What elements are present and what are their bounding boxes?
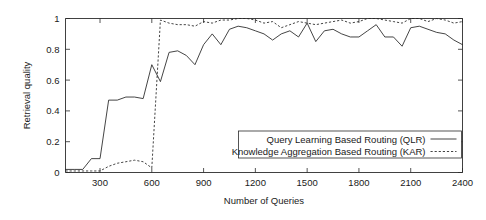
x-tick-label: 600 [144,177,160,188]
x-tick-label: 1500 [297,177,318,188]
y-axis-title: Retrieval quality [21,61,32,129]
x-tick-label: 1800 [348,177,369,188]
y-tick-label: 0 [54,167,59,178]
y-tick-label: 0.6 [46,75,59,86]
y-tick-label: 0.8 [46,44,59,55]
legend-label-kar: Knowledge Aggregation Based Routing (KAR… [232,146,426,157]
x-tick-label: 2400 [452,177,473,188]
x-tick-label: 1200 [245,177,266,188]
chart-figure: 00.20.40.60.8130060090012001500180021002… [0,0,486,220]
x-axis-title: Number of Queries [224,195,305,206]
x-tick-label: 2100 [400,177,421,188]
chart-legend: Query Learning Based Routing (QLR)Knowle… [232,131,462,158]
legend-label-qlr: Query Learning Based Routing (QLR) [267,134,426,145]
y-tick-label: 0.4 [46,105,59,116]
y-tick-label: 0.2 [46,136,59,147]
x-tick-label: 300 [92,177,108,188]
x-tick-label: 900 [196,177,212,188]
y-tick-label: 1 [54,13,59,24]
line-chart: 00.20.40.60.8130060090012001500180021002… [0,0,486,220]
